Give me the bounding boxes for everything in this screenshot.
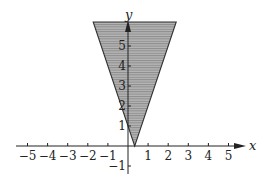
y-tick-label: 2 <box>118 99 126 113</box>
x-tick-label: −5 <box>19 149 37 163</box>
x-axis-label: x <box>249 138 257 153</box>
x-tick-label: 5 <box>225 149 233 163</box>
x-tick-label: −3 <box>59 149 77 163</box>
x-tick-label: 2 <box>164 149 172 163</box>
tick-labels: −5−4−3−2−112345−112345 <box>19 39 233 173</box>
y-tick-label: −1 <box>108 159 126 173</box>
shaded-region <box>93 22 176 146</box>
y-tick-label: 5 <box>118 39 126 53</box>
y-axis-label: y <box>124 7 133 22</box>
x-axis-arrow-icon <box>234 143 246 149</box>
y-tick-label: 3 <box>118 79 126 93</box>
x-tick-label: 3 <box>184 149 192 163</box>
y-tick-label: 1 <box>118 119 126 133</box>
region-polygon <box>93 22 176 146</box>
x-tick-label: 4 <box>205 149 213 163</box>
x-tick-label: −4 <box>39 149 57 163</box>
y-tick-label: 4 <box>118 59 126 73</box>
x-tick-label: 1 <box>144 149 152 163</box>
graph: −5−4−3−2−112345−112345 x y <box>0 0 264 183</box>
x-tick-label: −2 <box>79 149 97 163</box>
